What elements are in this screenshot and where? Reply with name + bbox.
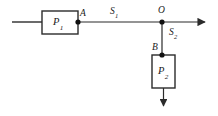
node-b-label: B	[152, 43, 158, 53]
node-o-dot	[159, 19, 164, 24]
diagram-graphics	[0, 0, 218, 116]
segment-s2-label-sub: 2	[174, 33, 177, 40]
box-p1-label-sub: 1	[60, 24, 64, 32]
box-p2-label: P2	[158, 66, 168, 79]
box-p1-label: P1	[53, 17, 63, 30]
segment-s1-label: S1	[110, 7, 118, 18]
node-a-label: A	[80, 9, 86, 19]
segment-s1-label-sub: 1	[115, 12, 118, 19]
box-p2-label-main: P	[158, 65, 164, 76]
box-p2-label-sub: 2	[165, 73, 169, 81]
diagram-canvas: P1 P2 A O B S1 S2	[0, 0, 218, 116]
node-a-dot	[75, 19, 80, 24]
box-p1-label-main: P	[53, 16, 59, 27]
segment-s2-label: S2	[169, 28, 177, 39]
node-o-label: O	[158, 6, 165, 16]
node-b-dot	[159, 52, 164, 57]
